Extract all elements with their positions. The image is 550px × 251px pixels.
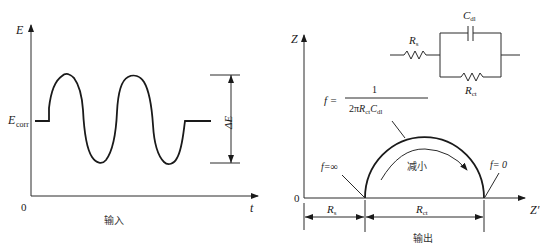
svg-text:f =: f = xyxy=(324,94,337,106)
output-origin-label: 0 xyxy=(294,192,300,204)
output-y-axis-label: Z xyxy=(291,32,298,46)
high-frequency-leader xyxy=(342,175,364,197)
rct-dimension: Rct xyxy=(366,200,484,232)
svg-text:1: 1 xyxy=(372,84,377,95)
delta-e-label: ΔE xyxy=(222,116,234,130)
input-caption: 输入 xyxy=(104,214,124,226)
input-origin-label: 0 xyxy=(21,201,27,213)
high-frequency-label: f=∞ xyxy=(321,161,338,172)
circuit-cdl-label: Cdl xyxy=(463,9,476,23)
formula-leader xyxy=(392,121,405,138)
rct-resistor xyxy=(461,73,483,81)
low-frequency-leader xyxy=(485,173,499,197)
frequency-decrease-label: 减小 xyxy=(407,161,427,172)
peak-frequency-formula: f = 1 2πRctCdl xyxy=(324,84,428,138)
output-x-axis-label: Z′ xyxy=(530,203,540,217)
low-frequency-label: f= 0 xyxy=(490,159,507,170)
circuit-rs-label: Rs xyxy=(408,34,419,48)
circuit-rct-label: Rct xyxy=(464,84,477,98)
output-panel: Z 0 Z′ 减小 f=∞ f= 0 f = 1 2πRctCdl xyxy=(291,9,540,244)
output-caption: 输出 xyxy=(413,232,433,244)
svg-text:Rct: Rct xyxy=(415,203,428,217)
rs-resistor xyxy=(404,51,426,59)
input-panel: E 0 t E corr ΔE 输入 xyxy=(7,23,258,226)
input-y-axis-label: E xyxy=(15,23,24,37)
ecorr-label: E corr xyxy=(7,113,29,129)
input-x-axis-label: t xyxy=(250,201,254,215)
svg-text:E: E xyxy=(7,113,16,127)
rs-dimension: Rs xyxy=(304,200,365,232)
svg-text:2πRctCdl: 2πRctCdl xyxy=(349,103,382,116)
sine-perturbation-wave xyxy=(35,74,211,164)
eis-diagram: E 0 t E corr ΔE 输入 Z 0 Z′ 减小 f=∞ f= xyxy=(0,0,550,251)
delta-e-bracket: ΔE xyxy=(210,75,240,163)
equivalent-circuit: Rs Cdl Rct xyxy=(390,9,520,98)
svg-text:Rs: Rs xyxy=(326,203,337,217)
svg-text:corr: corr xyxy=(16,120,29,129)
